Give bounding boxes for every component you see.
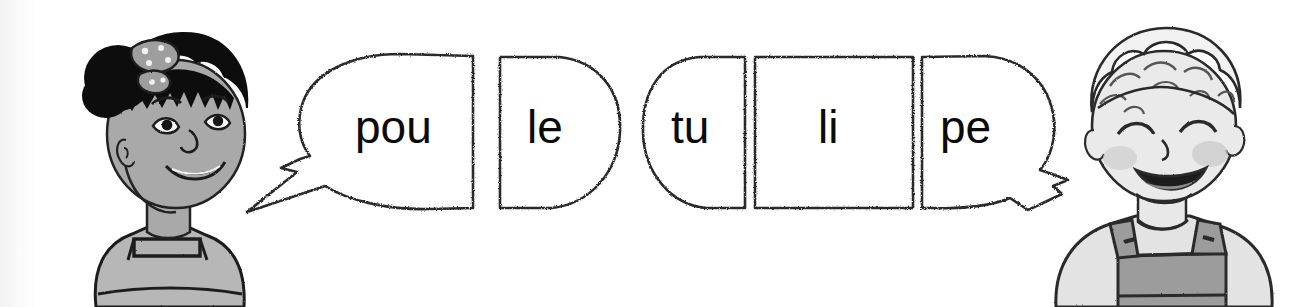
- syllable-label-tu: tu: [671, 104, 709, 150]
- worksheet-page: pou le tu li pe: [0, 0, 1292, 307]
- boy-character: [1040, 8, 1288, 307]
- syllable-label-pe: pe: [940, 104, 991, 150]
- syllable-label-pou: pou: [355, 104, 432, 150]
- syllable-label-le: le: [527, 104, 563, 150]
- syllable-label-li: li: [818, 104, 838, 150]
